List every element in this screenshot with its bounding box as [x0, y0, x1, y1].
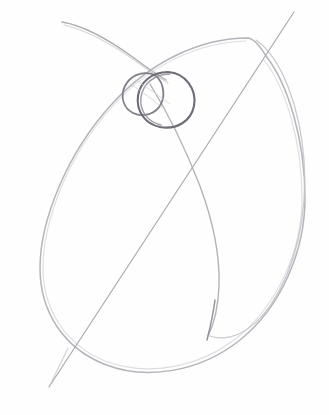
sketch-svg: Long thin curve sweeping from upper-left…	[0, 0, 329, 415]
sketch-canvas: Long thin curve sweeping from upper-left…	[0, 0, 329, 415]
